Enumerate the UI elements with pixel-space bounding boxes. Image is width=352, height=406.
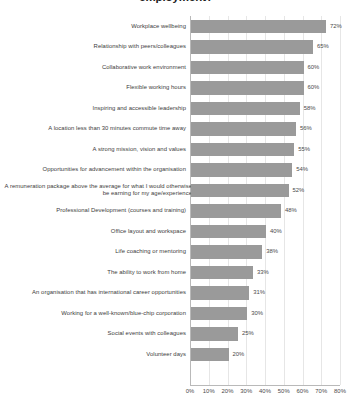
- bar: [191, 307, 247, 321]
- bar: [191, 102, 300, 116]
- bar: [191, 204, 281, 218]
- bar-value-label: 25%: [242, 330, 254, 336]
- bar-row: Inspiring and accessible leadership58%: [0, 98, 352, 119]
- category-label: Inspiring and accessible leadership: [0, 105, 186, 112]
- bar-row: Life coaching or mentoring38%: [0, 242, 352, 263]
- bar: [191, 81, 304, 95]
- bar-value-label: 60%: [308, 64, 320, 70]
- bar: [191, 20, 326, 34]
- x-axis-line: [190, 385, 340, 386]
- bar-value-label: 48%: [285, 207, 297, 213]
- bar-value-label: 38%: [266, 248, 278, 254]
- bar-value-label: 20%: [233, 351, 245, 357]
- category-label: The ability to work from home: [0, 269, 186, 276]
- bar: [191, 163, 292, 177]
- bar-value-label: 33%: [257, 269, 269, 275]
- bar-row: Relationship with peers/colleagues65%: [0, 37, 352, 58]
- bar-value-label: 60%: [308, 84, 320, 90]
- bar-row: Working for a well-known/blue-chip corpo…: [0, 303, 352, 324]
- bar-value-label: 52%: [293, 187, 305, 193]
- category-label: A strong mission, vision and values: [0, 146, 186, 153]
- bar-row: Office layout and workspace40%: [0, 221, 352, 242]
- bar: [191, 61, 304, 75]
- category-label: Volunteer days: [0, 351, 186, 358]
- bar-value-label: 30%: [251, 310, 263, 316]
- bar: [191, 286, 249, 300]
- bar-value-label: 31%: [253, 289, 265, 295]
- bar: [191, 348, 229, 362]
- bar-value-label: 72%: [330, 23, 342, 29]
- bar-value-label: 65%: [317, 43, 329, 49]
- bar-value-label: 58%: [304, 105, 316, 111]
- bar-row: Flexible working hours60%: [0, 78, 352, 99]
- category-label: An organisation that has international c…: [0, 289, 186, 296]
- category-label: Professional Development (courses and tr…: [0, 207, 186, 214]
- bar-value-label: 54%: [296, 166, 308, 172]
- x-tick-label: 80%: [325, 388, 352, 394]
- bar: [191, 143, 294, 157]
- category-label: Opportunities for advancement within the…: [0, 166, 186, 173]
- category-label: Workplace wellbeing: [0, 23, 186, 30]
- category-label: Collaborative work environment: [0, 64, 186, 71]
- chart-title: employment?: [0, 0, 352, 4]
- category-label: A remuneration package above the average…: [0, 183, 192, 198]
- category-label: Social events with colleagues: [0, 330, 186, 337]
- bar-row: A strong mission, vision and values55%: [0, 139, 352, 160]
- bar-row: An organisation that has international c…: [0, 283, 352, 304]
- bar-row: Social events with colleagues25%: [0, 324, 352, 345]
- bar-row: Opportunities for advancement within the…: [0, 160, 352, 181]
- bar: [191, 184, 289, 198]
- bar: [191, 40, 313, 54]
- horizontal-bar-chart: employment? Workplace wellbeing72%Relati…: [0, 0, 352, 406]
- category-label: Relationship with peers/colleagues: [0, 43, 186, 50]
- bar-value-label: 56%: [300, 125, 312, 131]
- bar-row: Collaborative work environment60%: [0, 57, 352, 78]
- category-label: A location less than 30 minutes commute …: [0, 125, 186, 132]
- bar: [191, 122, 296, 136]
- x-axis-tick-labels: 0%10%20%30%40%50%60%70%80%: [0, 388, 352, 400]
- bar-value-label: 55%: [298, 146, 310, 152]
- bar: [191, 245, 262, 259]
- category-label: Life coaching or mentoring: [0, 248, 186, 255]
- bar-row: A remuneration package above the average…: [0, 180, 352, 201]
- bar: [191, 266, 253, 280]
- bar-row: Workplace wellbeing72%: [0, 16, 352, 37]
- category-label: Office layout and workspace: [0, 228, 186, 235]
- bar-row: A location less than 30 minutes commute …: [0, 119, 352, 140]
- bar: [191, 327, 238, 341]
- bar-row: Professional Development (courses and tr…: [0, 201, 352, 222]
- category-label: Flexible working hours: [0, 84, 186, 91]
- bar-row: The ability to work from home33%: [0, 262, 352, 283]
- bar-value-label: 40%: [270, 228, 282, 234]
- bar-row: Volunteer days20%: [0, 344, 352, 365]
- bar: [191, 225, 266, 239]
- category-label: Working for a well-known/blue-chip corpo…: [0, 310, 186, 317]
